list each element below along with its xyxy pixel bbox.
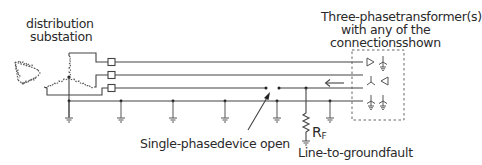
grounded-wye-icon (367, 95, 375, 110)
primary-delta-winding (15, 61, 40, 84)
open-device-label: Single-phasedevice open (140, 137, 290, 151)
transformer-symbols (367, 56, 388, 110)
grounded-wye-icon (379, 95, 387, 110)
phase-b-device (108, 72, 115, 79)
ground-icon (221, 100, 229, 122)
wye-icon (367, 76, 375, 85)
substation-label-line2: substation (30, 30, 92, 44)
ground-icon (117, 100, 125, 122)
delta-icon (381, 77, 388, 85)
transformer-label-line3: connectionsshown (330, 36, 441, 50)
grounded-wye-icon (379, 56, 387, 71)
fault-label: Line-to-groundfault (298, 146, 413, 160)
ground-icon (169, 100, 177, 122)
backfeed-arrow (326, 80, 345, 87)
phase-b-lead (94, 75, 108, 87)
phase-a-lead (69, 53, 108, 62)
resistor-label: RF (312, 125, 326, 143)
resistor-subscript: F (321, 131, 326, 141)
ground-icon (326, 100, 334, 122)
neutral-grounds (65, 100, 334, 122)
phase-c-device (108, 85, 115, 92)
phase-a-device (108, 59, 115, 66)
transformer-box (352, 50, 404, 120)
phase-c-lead (44, 87, 108, 95)
open-device-pointer (248, 92, 270, 130)
ground-icon (273, 100, 281, 122)
delta-icon (367, 58, 374, 66)
ground-icon (65, 100, 73, 122)
fault-resistor (302, 87, 310, 146)
